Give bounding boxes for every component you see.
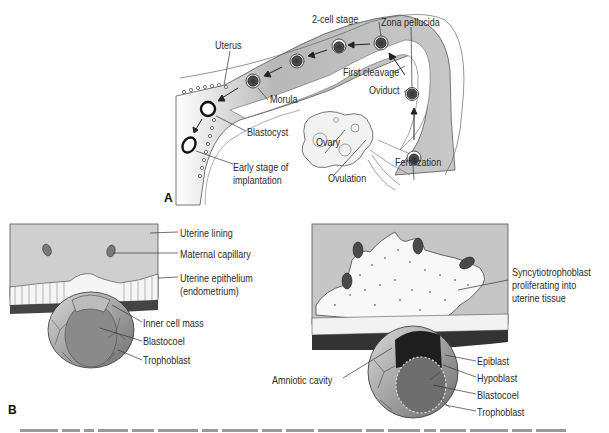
label-maternal-capillary: Maternal capillary [180,248,251,260]
label-uterine-epithelium-1: Uterine epithelium [180,272,253,284]
label-syncytiotrophoblast-1: Syncytiotrophoblast [512,266,591,278]
label-uterine-epithelium-2: (endometrium) [180,285,239,297]
label-blastocoel-left: Blastocoel [143,335,185,347]
blastocyst-shape [201,102,215,116]
label-zona-pellucida: Zona pellucida [381,16,440,28]
label-epiblast: Epiblast [477,355,509,367]
label-first-cleavage: First cleavage [343,66,399,78]
label-fertilization: Fertilization [395,156,441,168]
label-blastocyst: Blastocyst [247,126,288,138]
label-morula: Morula [270,93,298,105]
figure-caption-truncated [20,429,590,433]
label-uterine-lining: Uterine lining [180,227,233,239]
embryo-implantation-diagram [0,0,609,433]
label-hypoblast: Hypoblast [477,372,517,384]
label-ovary: Ovary [316,136,340,148]
panel-label-a: A [164,191,173,205]
label-ovulation: Ovulation [328,172,366,184]
label-trophoblast-right: Trophoblast [477,406,524,418]
label-oviduct: Oviduct [369,84,400,96]
panel-label-b: B [8,403,17,417]
label-early-implantation-2: implantation [233,174,282,186]
label-inner-cell-mass: Inner cell mass [143,317,204,329]
label-syncytiotrophoblast-3: uterine tissue [512,292,566,304]
label-early-implantation-1: Early stage of [233,161,288,173]
label-syncytiotrophoblast-2: proliferating into [512,279,576,291]
label-amniotic-cavity: Amniotic cavity [272,374,332,386]
label-blastocoel-right: Blastocoel [477,389,519,401]
label-2-cell-stage: 2-cell stage [312,13,358,25]
label-uterus: Uterus [215,39,242,51]
label-trophoblast-left: Trophoblast [143,354,190,366]
